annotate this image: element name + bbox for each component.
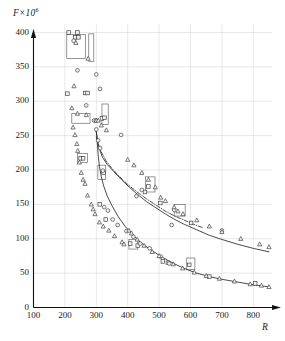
- data-point-triangle: [257, 242, 261, 246]
- data-point-triangle: [195, 218, 199, 222]
- data-point-triangle: [85, 193, 89, 197]
- data-point-square: [76, 31, 80, 35]
- x-tick-label: 700: [207, 310, 237, 320]
- data-point-square: [189, 221, 193, 225]
- y-tick-label: 400: [3, 27, 29, 37]
- data-point-triangle: [76, 148, 80, 152]
- data-point-triangle: [73, 133, 77, 137]
- data-point-triangle: [99, 123, 103, 127]
- data-point-circle: [140, 188, 144, 192]
- data-point-square: [161, 260, 165, 264]
- x-axis-arrow: [272, 305, 281, 310]
- data-point-triangle: [207, 224, 211, 228]
- data-point-square: [103, 116, 107, 120]
- y-tick-label: 50: [3, 267, 29, 277]
- curve-lower-fit-curve: [96, 130, 269, 287]
- y-tick-label: 350: [3, 61, 29, 71]
- data-point-circle: [119, 133, 123, 137]
- data-point-triangle: [239, 236, 243, 240]
- data-point-square: [187, 263, 191, 267]
- data-point-square: [159, 201, 163, 205]
- data-point-circle: [106, 209, 110, 213]
- data-point-triangle: [181, 212, 185, 216]
- x-tick-label: 100: [19, 310, 49, 320]
- data-point-triangle: [140, 170, 144, 174]
- data-point-circle: [94, 128, 98, 132]
- y-tick-label: 300: [3, 95, 29, 105]
- data-point-triangle: [153, 185, 157, 189]
- data-point-triangle: [176, 209, 180, 213]
- data-point-triangle: [132, 163, 136, 167]
- y-tick-label: 100: [3, 233, 29, 243]
- data-point-circle: [84, 103, 88, 107]
- data-point-circle: [170, 223, 174, 227]
- data-point-square: [253, 282, 257, 286]
- curve-upper-fit-curve: [96, 129, 269, 251]
- data-point-triangle: [104, 128, 108, 132]
- data-point-triangle: [172, 205, 176, 209]
- data-point-triangle: [126, 157, 130, 161]
- data-point-triangle: [97, 220, 101, 224]
- data-point-triangle: [112, 234, 116, 238]
- x-tick-label: 300: [81, 310, 111, 320]
- data-point-triangle: [91, 207, 95, 211]
- data-point-square: [147, 185, 151, 189]
- data-point-triangle: [101, 224, 105, 228]
- data-point-circle: [116, 223, 120, 227]
- data-point-circle: [94, 73, 98, 77]
- data-point-square: [66, 92, 70, 96]
- error-box: [102, 104, 108, 125]
- data-point-triangle: [267, 245, 271, 249]
- data-point-triangle: [81, 177, 85, 181]
- data-point-square: [81, 157, 85, 161]
- data-point-triangle: [107, 228, 111, 232]
- data-point-triangle: [259, 283, 263, 287]
- x-tick-label: 200: [50, 310, 80, 320]
- y-axis-arrow: [31, 29, 36, 38]
- data-point-triangle: [83, 181, 87, 185]
- data-point-square: [104, 218, 108, 222]
- data-point-circle: [148, 246, 152, 250]
- data-point-square: [98, 203, 102, 207]
- error-box: [89, 34, 94, 62]
- data-point-square: [128, 242, 132, 246]
- x-tick-label: 500: [144, 310, 174, 320]
- data-point-triangle: [89, 202, 93, 206]
- data-point-circle: [76, 68, 80, 72]
- data-point-triangle: [70, 106, 74, 110]
- data-point-circle: [167, 262, 171, 266]
- data-point-circle: [135, 194, 139, 198]
- data-point-circle: [138, 242, 142, 246]
- data-point-circle: [131, 235, 135, 239]
- y-tick-label: 200: [3, 164, 29, 174]
- plot-area: [0, 0, 285, 341]
- data-point-square: [86, 91, 90, 95]
- x-tick-label: 600: [176, 310, 206, 320]
- data-point-circle: [102, 205, 106, 209]
- data-point-circle: [111, 218, 115, 222]
- data-point-triangle: [79, 170, 83, 174]
- data-point-triangle: [75, 142, 79, 146]
- chart-figure: F×106 R 05010015020025030035040010020030…: [0, 0, 285, 341]
- data-point-triangle: [163, 199, 167, 203]
- curve-upper-fit-curve-dashdot: [96, 137, 203, 228]
- data-point-square: [77, 36, 81, 40]
- data-point-circle: [101, 169, 105, 173]
- x-tick-label: 800: [238, 310, 268, 320]
- data-point-circle: [98, 146, 102, 150]
- data-point-triangle: [72, 84, 76, 88]
- x-tick-label: 400: [113, 310, 143, 320]
- data-point-square: [67, 31, 71, 35]
- data-point-triangle: [146, 177, 150, 181]
- y-tick-label: 150: [3, 198, 29, 208]
- data-point-triangle: [86, 56, 90, 60]
- data-point-triangle: [71, 125, 75, 129]
- data-point-circle: [98, 87, 102, 91]
- data-point-circle: [96, 139, 100, 143]
- y-tick-label: 250: [3, 130, 29, 140]
